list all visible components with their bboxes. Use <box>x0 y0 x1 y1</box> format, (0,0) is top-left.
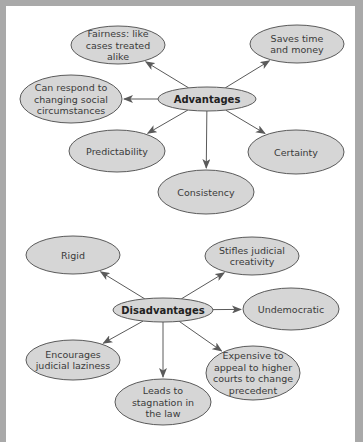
node-label: Consistency <box>177 187 235 198</box>
node-label: judicial laziness <box>35 360 111 371</box>
arrow-advantages-to-predictability <box>148 110 188 133</box>
node-label: Encourages <box>45 349 101 360</box>
arrow-disadvantages-to-expensive <box>179 321 221 351</box>
node-label: Undemocratic <box>258 304 324 315</box>
node-label: cases treated <box>86 40 151 51</box>
node-label: appeal to higher <box>214 362 292 373</box>
node-certainty: Certainty <box>248 130 344 174</box>
node-label: Saves time <box>271 33 324 44</box>
node-respond: Can respond tochanging socialcircumstanc… <box>20 75 122 123</box>
node-expensive: Expensive toappeal to highercourts to ch… <box>206 346 300 400</box>
node-label: Expensive to <box>222 350 283 361</box>
hub-label: Disadvantages <box>121 305 204 316</box>
node-label: circumstances <box>37 105 106 116</box>
hub-label: Advantages <box>174 94 241 105</box>
node-label: alike <box>107 51 129 62</box>
node-label: creativity <box>230 256 275 267</box>
node-label: Leads to <box>143 385 184 396</box>
node-label: the law <box>146 408 181 419</box>
node-label: courts to change <box>213 373 293 384</box>
node-stifles: Stifles judicialcreativity <box>205 237 299 275</box>
node-label: and money <box>270 44 324 55</box>
arrow-advantages-to-certainty <box>226 110 265 133</box>
node-rigid: Rigid <box>26 236 120 274</box>
node-undemocratic: Undemocratic <box>243 288 339 330</box>
arrow-advantages-to-saves <box>225 61 269 88</box>
arrow-disadvantages-to-encourages <box>103 321 143 343</box>
node-label: precedent <box>229 385 278 396</box>
node-label: Certainty <box>274 147 318 158</box>
node-label: Stifles judicial <box>219 245 285 256</box>
node-label: Predictability <box>86 146 148 157</box>
mind-map-canvas: AdvantagesFairness: likecases treatedali… <box>0 0 363 442</box>
node-leads: Leads tostagnation inthe law <box>115 379 211 425</box>
node-consistency: Consistency <box>158 170 254 214</box>
arrow-advantages-to-fairness <box>146 62 189 88</box>
node-saves: Saves timeand money <box>250 25 344 63</box>
node-label: changing social <box>34 94 108 105</box>
disadvantages-hub-node: Disadvantages <box>113 298 213 322</box>
arrow-disadvantages-to-stifles <box>181 273 224 299</box>
node-fairness: Fairness: likecases treatedalike <box>71 26 165 64</box>
arrow-advantages-to-consistency <box>206 111 207 168</box>
node-predictability: Predictability <box>69 130 165 172</box>
arrow-disadvantages-to-rigid <box>101 272 145 299</box>
node-label: Rigid <box>61 250 85 261</box>
advantages-hub-node: Advantages <box>158 87 256 111</box>
node-label: Can respond to <box>35 82 108 93</box>
node-encourages: Encouragesjudicial laziness <box>26 340 120 380</box>
node-label: stagnation in <box>132 397 194 408</box>
node-label: Fairness: like <box>87 28 148 39</box>
